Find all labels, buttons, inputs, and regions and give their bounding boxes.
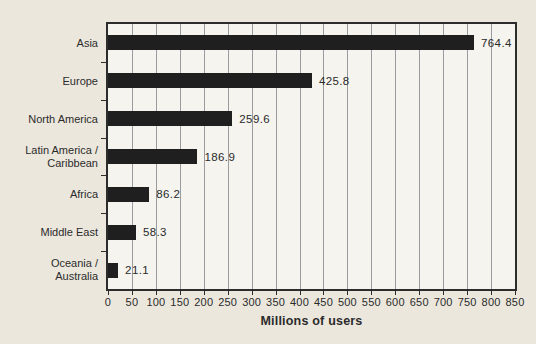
x-axis-tick <box>156 291 157 295</box>
bar <box>108 187 149 202</box>
bar <box>108 35 474 50</box>
x-axis-tick <box>252 291 253 295</box>
category-label: Africa <box>0 188 98 201</box>
bar <box>108 149 197 164</box>
bar-chart: 764.4425.8259.6186.986.258.321.1 Million… <box>0 0 536 344</box>
y-axis-tick <box>101 251 106 252</box>
x-axis-tick <box>276 291 277 295</box>
bar <box>108 225 136 240</box>
gridline <box>300 24 301 289</box>
gridline <box>443 24 444 289</box>
bar-value-label: 186.9 <box>204 151 235 163</box>
x-axis-tick <box>108 291 109 295</box>
x-axis-tick-label: 500 <box>338 296 357 308</box>
x-axis-tick-label: 450 <box>314 296 333 308</box>
x-axis-tick-label: 650 <box>410 296 429 308</box>
x-axis-tick <box>180 291 181 295</box>
gridline <box>371 24 372 289</box>
bar-value-label: 58.3 <box>143 226 167 238</box>
gridline <box>491 24 492 289</box>
x-axis-tick <box>443 291 444 295</box>
x-axis-tick <box>323 291 324 295</box>
x-axis-tick-label: 250 <box>218 296 237 308</box>
x-axis-tick <box>204 291 205 295</box>
x-axis-tick-label: 750 <box>458 296 477 308</box>
bar-value-label: 425.8 <box>319 75 350 87</box>
x-axis-title: Millions of users <box>106 314 517 328</box>
x-axis-tick <box>347 291 348 295</box>
x-axis-tick <box>515 291 516 295</box>
category-label: North America <box>0 112 98 125</box>
gridline <box>395 24 396 289</box>
x-axis-tick-label: 150 <box>170 296 189 308</box>
category-label: Middle East <box>0 226 98 239</box>
x-axis-tick-label: 200 <box>194 296 213 308</box>
x-axis-tick-label: 0 <box>105 296 111 308</box>
x-axis-tick <box>467 291 468 295</box>
category-label: Oceania / Australia <box>0 257 98 283</box>
x-axis-tick <box>371 291 372 295</box>
x-axis-tick-label: 50 <box>126 296 139 308</box>
bar-value-label: 764.4 <box>481 37 512 49</box>
bar <box>108 73 312 88</box>
x-axis-tick-label: 550 <box>362 296 381 308</box>
gridline <box>347 24 348 289</box>
bar-value-label: 86.2 <box>156 188 180 200</box>
x-axis-tick <box>132 291 133 295</box>
gridline <box>467 24 468 289</box>
y-axis-tick <box>101 62 106 63</box>
gridline <box>252 24 253 289</box>
bar-value-label: 259.6 <box>239 113 270 125</box>
gridline <box>276 24 277 289</box>
y-axis-tick <box>101 138 106 139</box>
x-axis-tick <box>228 291 229 295</box>
x-axis-tick <box>491 291 492 295</box>
bar <box>108 263 118 278</box>
x-axis-tick-label: 600 <box>386 296 405 308</box>
gridline <box>419 24 420 289</box>
x-axis-tick-label: 800 <box>482 296 501 308</box>
x-axis-tick <box>395 291 396 295</box>
y-axis-tick <box>101 213 106 214</box>
x-axis-tick-label: 850 <box>506 296 525 308</box>
y-axis-tick <box>101 175 106 176</box>
x-axis-tick <box>419 291 420 295</box>
category-label: Europe <box>0 74 98 87</box>
y-axis-tick <box>101 100 106 101</box>
x-axis-tick-label: 350 <box>266 296 285 308</box>
x-axis-tick-label: 700 <box>434 296 453 308</box>
x-axis-tick-label: 400 <box>290 296 309 308</box>
x-axis-tick <box>300 291 301 295</box>
bar <box>108 111 232 126</box>
bar-value-label: 21.1 <box>125 264 149 276</box>
category-label: Asia <box>0 36 98 49</box>
x-axis-tick-label: 300 <box>242 296 261 308</box>
x-axis-tick-label: 100 <box>146 296 165 308</box>
gridline <box>323 24 324 289</box>
plot-area: 764.4425.8259.6186.986.258.321.1 <box>106 22 517 291</box>
category-label: Latin America / Caribbean <box>0 144 98 170</box>
